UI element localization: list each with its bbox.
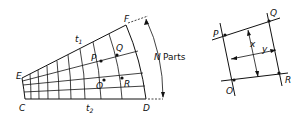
equipotential-line (80, 49, 85, 99)
label-e: E (16, 71, 22, 81)
equipotential-line (57, 61, 59, 99)
flow-line (23, 51, 139, 81)
label-o: O (96, 81, 103, 91)
label-r-detail: R (285, 75, 291, 85)
label-t2: t2 (86, 103, 94, 114)
point-q (267, 19, 270, 22)
top-edge-ef (22, 25, 126, 78)
label-o-detail: O (226, 86, 233, 96)
equipotential-line (30, 74, 31, 99)
label-q-detail: Q (270, 8, 277, 18)
enlarged-cell (212, 13, 288, 96)
label-n: N (154, 52, 161, 62)
label-f: F (124, 14, 130, 24)
label-c: C (19, 103, 26, 113)
label-parts: Parts (163, 52, 186, 62)
label-p-detail: P (213, 29, 219, 39)
label-t1: t1 (75, 34, 82, 45)
point-r (277, 71, 280, 74)
arrowhead (231, 56, 237, 60)
label-d: D (143, 103, 150, 113)
point-p (99, 59, 102, 62)
arrowhead-up (144, 19, 149, 25)
flow-net-diagram: E F C D P Q O R t1 t2 N Parts P Q O R x … (0, 0, 306, 116)
point-q (115, 53, 118, 56)
arrowhead-down (161, 92, 165, 98)
label-q: Q (116, 43, 123, 53)
label-p: P (91, 53, 97, 63)
label-r: R (124, 79, 130, 89)
label-y: y (261, 44, 268, 54)
equipotential-line (68, 55, 71, 99)
dimension-extension (128, 16, 148, 23)
label-x: x (249, 39, 256, 49)
point-o (232, 78, 235, 81)
equipotential-line (38, 70, 39, 99)
point-p (223, 33, 226, 36)
arrowhead (247, 30, 251, 36)
